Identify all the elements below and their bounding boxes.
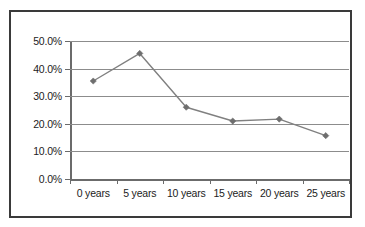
data-point-marker xyxy=(90,78,96,84)
x-tick-label-2: 10 years xyxy=(167,187,206,199)
data-point-marker xyxy=(276,116,282,122)
y-tick-label-30: 30.0% xyxy=(33,90,62,102)
x-tick-mark-2 xyxy=(163,179,164,184)
y-tick-label-50: 50.0% xyxy=(33,35,62,47)
x-tick-mark-1 xyxy=(117,179,118,184)
data-point-marker xyxy=(230,118,236,124)
data-point-marker xyxy=(323,133,329,139)
x-tick-mark-4 xyxy=(256,179,257,184)
x-tick-label-4: 20 years xyxy=(260,187,299,199)
y-tick-label-20: 20.0% xyxy=(33,118,62,130)
x-tick-label-5: 25 years xyxy=(306,187,345,199)
x-tick-mark-6 xyxy=(349,179,350,184)
chart-figure-frame: 50.0% 40.0% 30.0% 20.0% 10.0% 0.0% xyxy=(9,10,352,218)
x-tick-mark-5 xyxy=(303,179,304,184)
y-tick-label-40: 40.0% xyxy=(33,63,62,75)
x-tick-mark-0 xyxy=(70,179,71,184)
y-tick-label-0: 0.0% xyxy=(39,173,62,185)
plot-area: 50.0% 40.0% 30.0% 20.0% 10.0% 0.0% xyxy=(70,41,349,179)
series-line xyxy=(93,53,326,135)
x-tick-label-1: 5 years xyxy=(123,187,156,199)
x-tick-mark-3 xyxy=(210,179,211,184)
y-tick-label-10: 10.0% xyxy=(33,145,62,157)
x-tick-label-0: 0 years xyxy=(77,187,110,199)
data-series-layer xyxy=(70,41,349,179)
line-chart: 50.0% 40.0% 30.0% 20.0% 10.0% 0.0% xyxy=(11,12,354,220)
x-tick-label-3: 15 years xyxy=(213,187,252,199)
series-markers xyxy=(90,50,329,138)
